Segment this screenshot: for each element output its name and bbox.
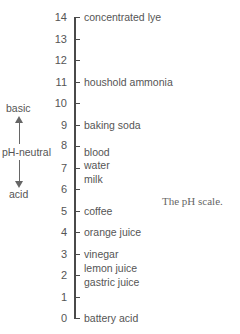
tick-9 <box>74 125 80 126</box>
label-acid: acid <box>9 188 28 200</box>
label-ph-neutral: pH-neutral <box>2 146 51 158</box>
tick-6 <box>74 189 80 190</box>
tick-14 <box>74 17 80 18</box>
tick-label-14: 14 <box>45 11 67 23</box>
tick-label-4: 4 <box>45 226 67 238</box>
tick-1 <box>74 297 80 298</box>
tick-label-3: 3 <box>45 248 67 260</box>
tick-label-10: 10 <box>45 97 67 109</box>
label-baking-soda: baking soda <box>84 119 141 131</box>
arrow-up-shaft <box>19 122 20 144</box>
tick-3 <box>74 254 80 255</box>
tick-10 <box>74 103 80 104</box>
label-lemon-juice: lemon juice <box>84 262 137 274</box>
tick-7 <box>74 168 80 169</box>
label-basic: basic <box>6 102 31 114</box>
label-concentrated-lye: concentrated lye <box>84 11 161 23</box>
tick-label-13: 13 <box>45 33 67 45</box>
arrow-down-icon <box>15 181 23 188</box>
tick-0 <box>74 318 80 319</box>
tick-label-9: 9 <box>45 119 67 131</box>
arrow-down-shaft <box>19 160 20 182</box>
label-water: water <box>84 159 110 171</box>
label-household-ammonia: houshold ammonia <box>84 76 173 88</box>
tick-label-11: 11 <box>45 76 67 88</box>
label-vinegar: vinegar <box>84 248 118 260</box>
tick-label-6: 6 <box>45 183 67 195</box>
figure-caption: The pH scale. <box>162 195 223 207</box>
label-milk: milk <box>84 173 103 185</box>
tick-label-12: 12 <box>45 54 67 66</box>
tick-11 <box>74 82 80 83</box>
label-gastric-juice: gastric juice <box>84 276 139 288</box>
tick-label-5: 5 <box>45 205 67 217</box>
tick-5 <box>74 211 80 212</box>
label-orange-juice: orange juice <box>84 226 141 238</box>
label-blood: blood <box>84 146 110 158</box>
tick-label-2: 2 <box>45 269 67 281</box>
tick-13 <box>74 39 80 40</box>
tick-2 <box>74 275 80 276</box>
label-battery-acid: battery acid <box>84 312 138 324</box>
tick-label-0: 0 <box>45 312 67 324</box>
label-coffee: coffee <box>84 205 112 217</box>
tick-label-1: 1 <box>45 291 67 303</box>
tick-8 <box>74 146 80 147</box>
tick-4 <box>74 232 80 233</box>
tick-label-7: 7 <box>45 162 67 174</box>
tick-12 <box>74 60 80 61</box>
